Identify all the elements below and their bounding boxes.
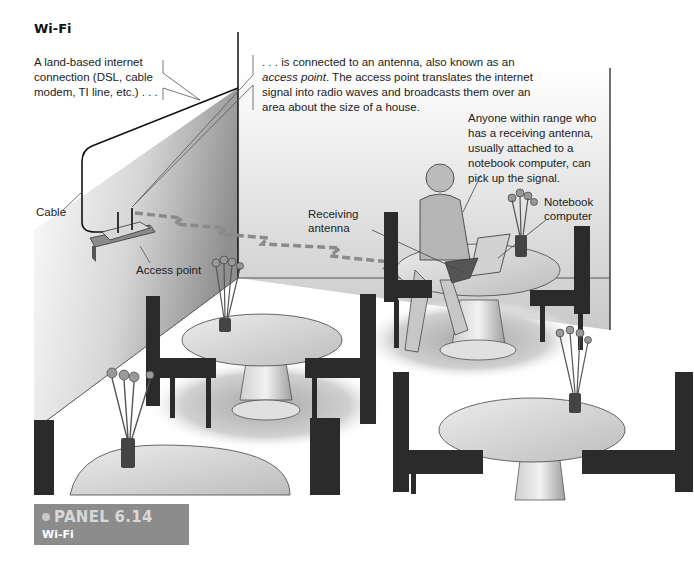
label-receiving-antenna: Receiving antenna bbox=[308, 207, 359, 235]
panel-number-text: PANEL 6.14 bbox=[54, 508, 153, 526]
label-line: Receiving bbox=[308, 207, 359, 221]
callout-line: usually attached to a bbox=[468, 141, 597, 156]
callout-line: connection (DSL, cable bbox=[34, 70, 158, 85]
label-line: Notebook bbox=[544, 195, 593, 209]
callout-land-connection: A land-based internet connection (DSL, c… bbox=[34, 55, 158, 100]
label-notebook-computer: Notebook computer bbox=[544, 195, 593, 223]
callout-line: Anyone within range who bbox=[468, 111, 597, 126]
callout-line: . . . is connected to an antenna, also k… bbox=[262, 55, 592, 70]
panel-number: PANEL 6.14 bbox=[42, 508, 153, 526]
label-line: antenna bbox=[308, 221, 359, 235]
figure-title: Wi-Fi bbox=[34, 21, 72, 36]
callout-line: signal into radio waves and broadcasts t… bbox=[262, 85, 592, 100]
label-access-point: Access point bbox=[136, 263, 201, 277]
callout-anyone-in-range: Anyone within range who has a receiving … bbox=[468, 111, 597, 186]
access-point-term: access point bbox=[262, 71, 326, 83]
callout-line: pick up the signal. bbox=[468, 171, 597, 186]
label-line: computer bbox=[544, 209, 593, 223]
callout-text: . The access point translates the intern… bbox=[326, 71, 533, 83]
callout-line: access point. The access point translate… bbox=[262, 70, 592, 85]
label-cable: Cable bbox=[36, 205, 66, 219]
callout-line: A land-based internet bbox=[34, 55, 158, 70]
panel-caption: PANEL 6.14 Wi-Fi bbox=[34, 504, 189, 545]
bullet-dot-icon bbox=[42, 513, 50, 521]
callout-line: modem, TI line, etc.) . . . bbox=[34, 85, 158, 100]
callout-line: has a receiving antenna, bbox=[468, 126, 597, 141]
panel-subtitle: Wi-Fi bbox=[42, 528, 74, 541]
callout-line: notebook computer, can bbox=[468, 156, 597, 171]
callout-access-point: . . . is connected to an antenna, also k… bbox=[262, 55, 592, 115]
